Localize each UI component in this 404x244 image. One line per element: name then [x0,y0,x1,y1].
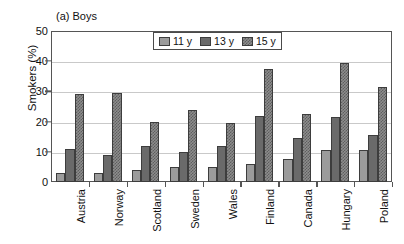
legend-label: 15 y [256,35,276,47]
bar [378,87,387,182]
y-tick-label: 30 [18,85,48,97]
x-tick-label: Sweden [189,189,201,229]
y-tick-label: 20 [18,116,48,128]
y-tick-label: 10 [18,146,48,158]
x-tick-mark [240,182,241,187]
bar [359,150,368,182]
bar [321,150,330,182]
x-tick-mark [354,182,355,187]
bar-group [165,31,203,182]
bar-group [240,31,278,182]
legend-swatch-icon [200,37,211,46]
y-tick-mark [45,151,51,152]
panel-label: (a) Boys [56,10,97,22]
bar [112,93,121,182]
y-tick-label: 50 [18,25,48,37]
x-tick-mark [278,182,279,187]
x-tick-label: Hungary [340,189,352,231]
x-tick-mark [392,182,393,187]
bar [179,152,188,182]
x-tick-mark [316,182,317,187]
legend-item: 13 y [200,35,234,47]
bar [293,138,302,182]
y-tick-label: 0 [18,176,48,188]
x-tick-mark [165,182,166,187]
legend-item: 15 y [242,35,276,47]
bar-group [203,31,241,182]
x-tick-label: Scotland [151,189,163,232]
bar [302,114,311,182]
bar [368,135,377,182]
legend-swatch-icon [242,37,253,46]
chart-legend: 11 y13 y15 y [153,32,282,50]
bar [150,122,159,182]
bar [208,167,217,182]
chart-figure: (a) Boys Smokers (%) 11 y13 y15 y 010203… [0,0,404,244]
bar-group [354,31,392,182]
y-tick-mark [45,61,51,62]
bar [226,123,235,182]
bar [103,155,112,182]
bar-group [127,31,165,182]
x-tick-mark [127,182,128,187]
bar [56,173,65,182]
x-tick-mark [89,182,90,187]
legend-label: 11 y [173,35,192,47]
bar [340,63,349,182]
bar-group [51,31,89,182]
y-tick-mark [45,121,51,122]
bar [217,146,226,182]
bar [246,164,255,182]
bar [283,159,292,182]
bar [331,117,340,182]
x-tick-label: Norway [113,189,125,226]
bar [141,146,150,182]
legend-label: 13 y [214,35,234,47]
y-tick-mark [45,91,51,92]
bar [132,170,141,182]
legend-item: 11 y [159,35,192,47]
bar [264,69,273,182]
bar-group [316,31,354,182]
legend-swatch-icon [159,37,170,46]
bar [255,116,264,182]
bar [170,167,179,182]
bar-group [278,31,316,182]
x-tick-label: Poland [378,189,390,223]
y-tick-label: 40 [18,55,48,67]
bar-group [89,31,127,182]
x-tick-label: Wales [227,189,239,219]
x-tick-label: Finland [264,189,276,225]
bar [75,94,84,182]
bar [188,110,197,182]
bars-layer [51,31,392,182]
x-tick-mark [203,182,204,187]
bar [65,149,74,182]
x-tick-label: Canada [302,189,314,228]
bar [94,173,103,182]
x-tick-label: Austria [75,189,87,223]
